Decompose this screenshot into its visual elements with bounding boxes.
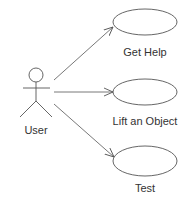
use-case-diagram: User Get Help Lift an Object Test <box>0 0 193 197</box>
use-case-test[interactable]: Test <box>113 146 177 194</box>
actor-left-leg <box>20 101 36 117</box>
association-test <box>54 104 114 157</box>
use-case-ellipse <box>113 146 177 176</box>
use-case-lift-an-object[interactable]: Lift an Object <box>113 79 178 127</box>
use-case-label: Test <box>135 182 155 194</box>
use-case-label: Get Help <box>123 46 166 58</box>
use-case-ellipse <box>113 9 177 35</box>
use-case-label: Lift an Object <box>113 115 178 127</box>
association-get-help <box>54 27 113 80</box>
use-case-ellipse <box>113 79 177 105</box>
use-case-get-help[interactable]: Get Help <box>113 9 177 58</box>
actor-right-leg <box>36 101 52 117</box>
actor-user[interactable]: User <box>20 68 52 136</box>
actor-head <box>29 68 43 82</box>
actor-label: User <box>24 124 48 136</box>
